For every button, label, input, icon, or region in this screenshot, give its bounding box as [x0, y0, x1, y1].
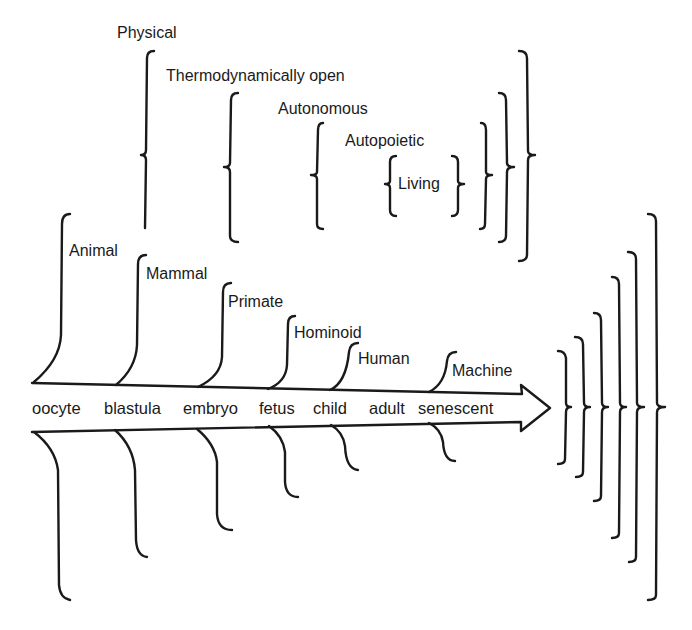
right-brace-primate: [612, 277, 626, 538]
label-mammal: Mammal: [146, 265, 207, 282]
right-brace-animal: [648, 214, 665, 600]
label-machine: Machine: [452, 362, 513, 379]
stage-adult: adult: [369, 399, 405, 417]
right-brace-living: [452, 156, 464, 216]
lower-brace-mammal: [115, 430, 147, 557]
label-animal: Animal: [69, 242, 118, 259]
right-brace-hominoid: [594, 313, 608, 501]
label-primate: Primate: [228, 293, 283, 310]
stage-fetus: fetus: [259, 399, 295, 417]
right-brace-mammal: [628, 252, 644, 562]
stage-embryo: embryo: [183, 399, 238, 417]
lower-brace-machine: [429, 423, 455, 461]
right-brace-human: [575, 337, 590, 477]
label-living: Living: [398, 175, 440, 192]
upper-brace-human: [330, 343, 358, 390]
left-brace-thermodynamically-open: [224, 93, 238, 242]
upper-brace-hominoid: [268, 316, 295, 389]
label-physical: Physical: [117, 24, 177, 41]
stage-child: child: [313, 399, 347, 417]
label-autonomous: Autonomous: [278, 100, 368, 117]
stage-blastula: blastula: [104, 399, 162, 417]
upper-brace-primate: [198, 283, 231, 387]
label-hominoid: Hominoid: [294, 324, 362, 341]
upper-brace-mammal: [116, 255, 146, 385]
right-brace-autopoietic: [480, 123, 492, 229]
lower-brace-hominoid: [269, 426, 298, 497]
right-brace-physical: [519, 51, 535, 261]
stage-oocyte: oocyte: [32, 399, 81, 417]
left-brace-physical: [141, 51, 154, 228]
right-brace-machine: [558, 351, 571, 464]
label-human: Human: [358, 350, 410, 367]
nested-categories-diagram: Physical Thermodynamically open Autonomo…: [0, 0, 692, 630]
stage-senescent: senescent: [418, 399, 494, 417]
label-autopoietic: Autopoietic: [345, 132, 424, 149]
left-brace-autonomous: [311, 123, 323, 229]
right-brace-thermodynamically-open: [499, 93, 514, 242]
lower-brace-human: [331, 425, 358, 470]
lower-brace-animal: [34, 432, 70, 600]
upper-brace-animal: [34, 214, 70, 382]
left-brace-living: [385, 156, 396, 216]
label-thermodynamically-open: Thermodynamically open: [166, 67, 345, 84]
lower-brace-primate: [197, 429, 232, 530]
